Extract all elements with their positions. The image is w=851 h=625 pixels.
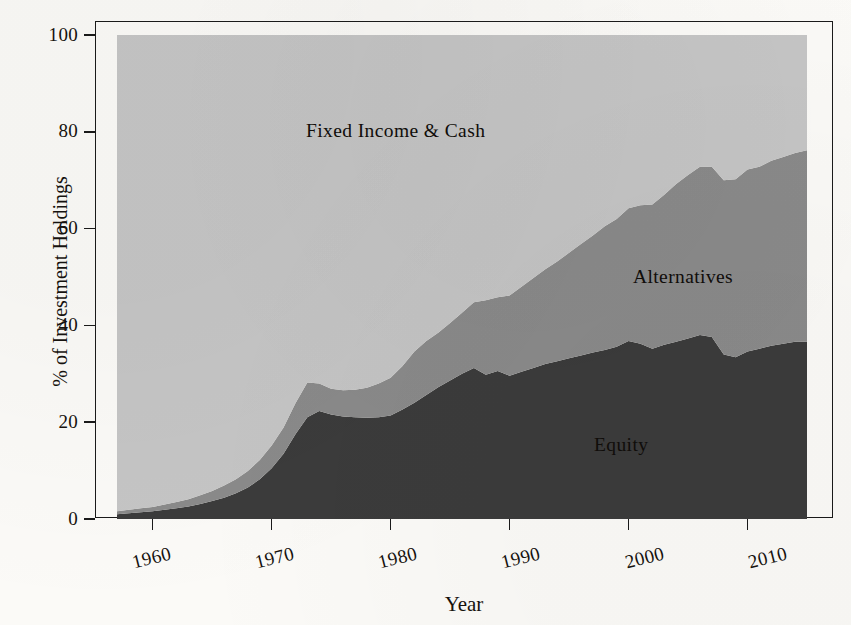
chart-page: 100 80 60 40 20 0 1960 1970 1980 1990 20… (0, 0, 851, 625)
area-label-fixed-income: Fixed Income & Cash (306, 120, 485, 142)
area-label-alternatives: Alternatives (633, 266, 733, 288)
area-label-equity: Equity (594, 434, 648, 456)
stacked-area-chart (0, 0, 851, 625)
